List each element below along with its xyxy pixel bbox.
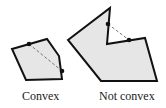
not-convex-label: Not convex [99, 89, 155, 104]
convex-shape [12, 39, 64, 80]
not-convex-dashed-segment [108, 24, 129, 40]
not-convex-segment-endpoint-b [127, 38, 132, 43]
not-convex-polygon [68, 8, 157, 81]
convex-polygon [12, 39, 62, 80]
convex-segment-endpoint-b [60, 69, 65, 74]
convex-label: Convex [22, 89, 59, 104]
not-convex-segment-endpoint-a [106, 22, 111, 27]
not-convex-shape [68, 8, 157, 81]
convex-segment-endpoint-a [27, 42, 32, 47]
